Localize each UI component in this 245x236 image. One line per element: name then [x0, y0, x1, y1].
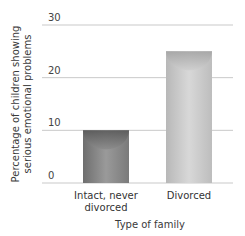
- y-tick-label: 10: [48, 117, 61, 128]
- bar: [83, 130, 129, 183]
- x-category-label: divorced: [84, 202, 127, 213]
- x-axis-categories: Intact, neverdivorcedDivorced: [74, 190, 211, 213]
- y-tick-label: 0: [48, 170, 54, 181]
- y-axis-label-line-2: serious emotional problems: [22, 35, 33, 174]
- y-tick-label: 30: [48, 12, 61, 23]
- bar-chart: 0102030 Intact, neverdivorcedDivorced Ty…: [0, 0, 245, 236]
- y-axis-label: Percentage of children showing serious e…: [10, 26, 33, 183]
- bar: [166, 51, 212, 183]
- y-axis-label-line-1: Percentage of children showing: [10, 26, 21, 183]
- x-category-label: Divorced: [167, 190, 211, 201]
- y-axis-ticks: 0102030: [48, 12, 61, 181]
- bars: [83, 51, 212, 183]
- y-tick-label: 20: [48, 65, 61, 76]
- x-axis-label: Type of family: [114, 219, 185, 230]
- x-category-label: Intact, never: [74, 190, 139, 201]
